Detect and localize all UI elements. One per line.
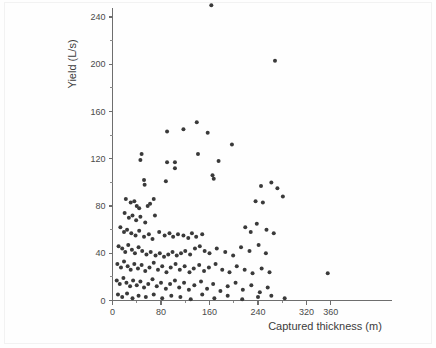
data-point (126, 243, 130, 247)
x-tick-label: 360 (323, 307, 338, 317)
data-point (195, 120, 199, 124)
data-point (186, 236, 190, 240)
data-point (173, 278, 177, 282)
data-point (273, 59, 277, 63)
data-point (217, 159, 221, 163)
data-point (151, 277, 155, 281)
data-point (194, 235, 198, 239)
data-point (129, 231, 133, 235)
data-point (140, 249, 144, 253)
data-point (200, 293, 204, 297)
data-point (181, 127, 185, 131)
y-tick-label: 240 (90, 12, 105, 22)
data-point (187, 288, 191, 292)
data-point (178, 268, 182, 272)
data-point (164, 287, 168, 291)
data-point (129, 268, 133, 272)
data-point (214, 262, 218, 266)
data-point (153, 213, 157, 217)
data-point (131, 278, 135, 282)
data-point (187, 270, 191, 274)
data-point (275, 186, 279, 190)
data-point (211, 282, 215, 286)
data-point (175, 254, 179, 258)
data-point (199, 280, 203, 284)
data-point (283, 296, 287, 300)
data-point (133, 251, 137, 255)
data-point (171, 250, 175, 254)
data-point (122, 260, 126, 264)
data-point (132, 199, 136, 203)
data-point (169, 265, 173, 269)
data-point (243, 268, 247, 272)
x-axis-title: Captured thickness (m) (268, 320, 382, 332)
data-point (281, 195, 285, 199)
data-point (167, 231, 171, 235)
data-point (266, 286, 270, 290)
y-tick-label: 200 (90, 59, 105, 69)
data-point (138, 280, 142, 284)
data-point (202, 269, 206, 273)
data-point (249, 283, 253, 287)
data-point (174, 262, 178, 266)
data-point (142, 235, 146, 239)
data-point (235, 264, 239, 268)
data-point (240, 297, 244, 301)
data-point (234, 281, 238, 285)
data-point (152, 261, 156, 265)
data-point (152, 293, 156, 297)
y-axis-title: Yield (L/s) (66, 39, 78, 88)
data-point (239, 245, 243, 249)
data-point (151, 237, 155, 241)
data-point (198, 244, 202, 248)
data-point (269, 294, 273, 298)
data-point (243, 225, 247, 229)
data-point (241, 288, 245, 292)
data-point (152, 197, 156, 201)
data-point (264, 251, 268, 255)
data-point (259, 184, 263, 188)
data-point (160, 296, 164, 300)
data-point (256, 295, 260, 299)
data-point (212, 296, 216, 300)
data-point (205, 287, 209, 291)
data-point (165, 160, 169, 164)
data-point (137, 206, 141, 210)
data-point (207, 265, 211, 269)
data-point (192, 283, 196, 287)
data-point (117, 244, 121, 248)
data-point (269, 180, 273, 184)
data-point (164, 179, 168, 183)
data-point (138, 158, 142, 162)
data-point (125, 291, 129, 295)
data-point (192, 267, 196, 271)
data-point (168, 282, 172, 286)
x-axis: 080160240320360 (110, 301, 392, 317)
data-point (147, 265, 151, 269)
data-point (206, 131, 210, 135)
data-point (182, 281, 186, 285)
data-point (197, 263, 201, 267)
chart-canvas: 04080120160200240 080160240320360 Yield … (0, 0, 436, 348)
data-point (200, 232, 204, 236)
data-point (137, 245, 141, 249)
data-point (144, 295, 148, 299)
data-point (132, 262, 136, 266)
data-point (143, 221, 147, 225)
data-point (140, 263, 144, 267)
data-point (165, 130, 169, 134)
data-point (193, 247, 197, 251)
data-point (121, 276, 125, 280)
data-point (173, 166, 177, 170)
data-point (146, 282, 150, 286)
data-point (120, 247, 124, 251)
data-point (218, 289, 222, 293)
data-point (134, 234, 138, 238)
data-point (162, 255, 166, 259)
data-point (188, 252, 192, 256)
data-point (261, 200, 265, 204)
data-point (190, 231, 194, 235)
x-tick-label: 240 (250, 307, 265, 317)
data-point (209, 3, 213, 7)
data-point (164, 270, 168, 274)
